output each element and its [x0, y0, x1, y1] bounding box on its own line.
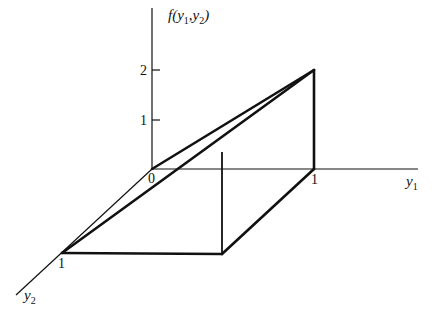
edge-right-base — [222, 169, 314, 254]
edge-front-base — [62, 253, 222, 254]
origin-label: 0 — [148, 171, 155, 186]
tick-label-2: 2 — [140, 63, 147, 78]
tick-label-1: 1 — [140, 113, 147, 128]
y2-axis-label: y2 — [22, 287, 36, 306]
y1-one-label: 1 — [311, 172, 318, 187]
y2-axis — [16, 169, 152, 295]
density-diagram: f(y1,y2) 2 1 0 1 1 y1 y2 — [0, 0, 432, 310]
edge-front-diagonal — [62, 70, 314, 253]
y1-axis-label: y1 — [404, 173, 418, 192]
edge-origin-to-peak — [152, 70, 314, 169]
y2-one-label: 1 — [58, 256, 65, 271]
vertical-axis-label: f(y1,y2) — [168, 7, 209, 26]
